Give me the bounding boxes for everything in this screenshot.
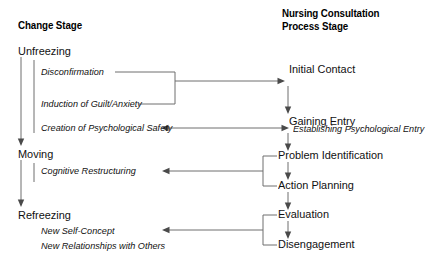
header-change-stage: Change Stage — [18, 20, 82, 31]
arrowhead-psych-entry-right — [282, 125, 290, 131]
arrowhead-initial-contact — [278, 78, 286, 84]
arrowhead-refreezing — [162, 227, 170, 233]
arrowhead-gaining-entry — [285, 107, 291, 115]
header-nursing-consultation-line2: Process Stage — [282, 21, 348, 32]
step-initial-contact: Initial Contact — [289, 64, 355, 76]
stage-moving: Moving — [18, 149, 53, 161]
item-creation-of-psychological-safety: Creation of Psychological Safety — [41, 123, 172, 133]
item-cognitive-restructuring: Cognitive Restructuring — [41, 166, 136, 176]
stage-refreezing: Refreezing — [18, 210, 71, 222]
step-disengagement: Disengagement — [278, 239, 355, 251]
stage-unfreezing: Unfreezing — [18, 46, 71, 58]
header-nursing-consultation-line1: Nursing Consultation — [282, 8, 379, 19]
arrowhead-moving-to-refreezing — [18, 200, 24, 208]
item-disconfirmation: Disconfirmation — [41, 67, 104, 77]
step-problem-identification: Problem Identification — [278, 150, 383, 162]
arrowhead-unfreezing-to-moving — [18, 139, 24, 147]
step-establishing-psychological-entry: Establishing Psychological Entry — [293, 124, 424, 134]
diagram-canvas: Change Stage Nursing Consultation Proces… — [0, 0, 439, 262]
step-action-planning: Action Planning — [278, 180, 354, 192]
item-new-relationships-with-others: New Relationships with Others — [41, 241, 165, 251]
step-evaluation: Evaluation — [278, 209, 329, 221]
item-induction-of-guilt-anxiety: Induction of Guilt/Anxiety — [41, 99, 142, 109]
arrowhead-cognitive-restructuring — [162, 168, 170, 174]
item-new-self-concept: New Self-Concept — [41, 226, 115, 236]
